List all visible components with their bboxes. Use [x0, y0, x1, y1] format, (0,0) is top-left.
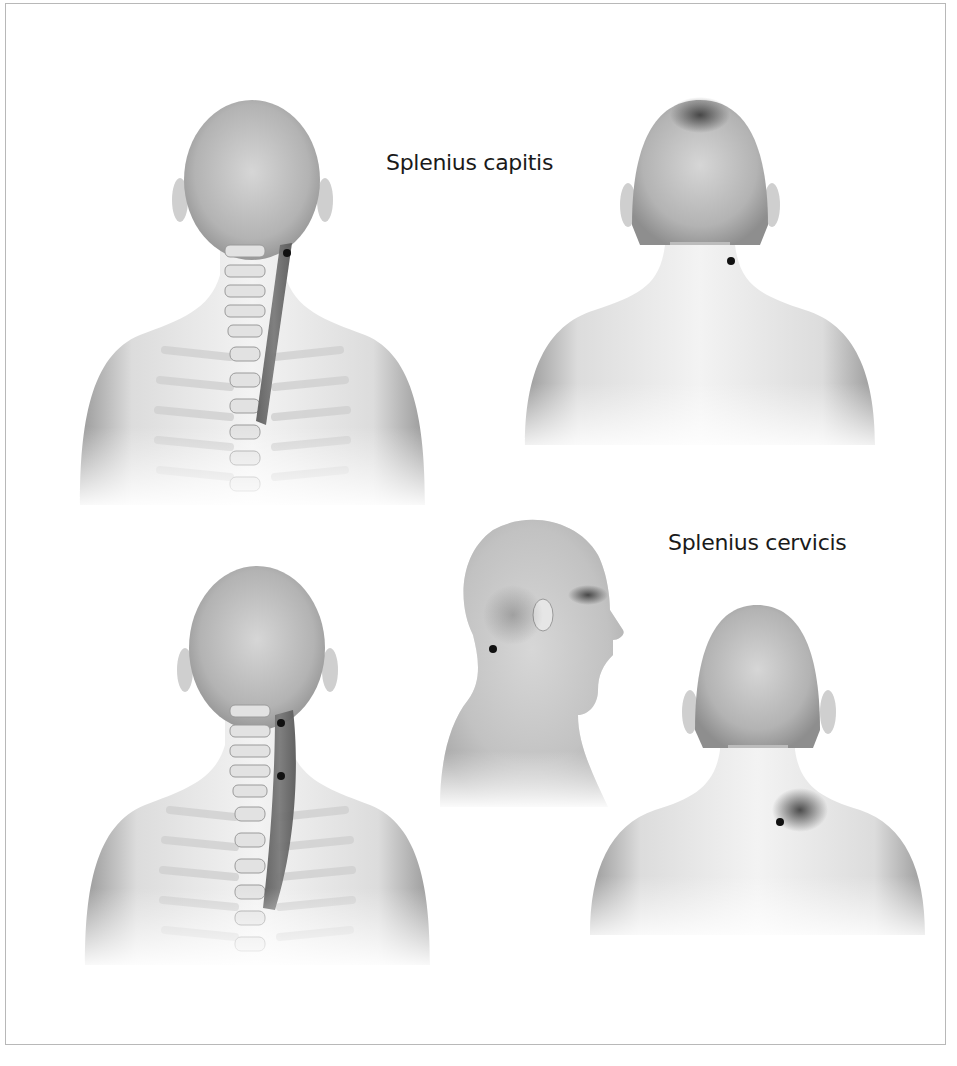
capitis-anatomy-figure: [70, 95, 435, 510]
capitis-referral-figure: [520, 95, 880, 455]
cervicis-anatomy-figure: [75, 560, 440, 970]
cervicis-referral-posterior-figure: [585, 600, 930, 945]
label-splenius-cervicis: Splenius cervicis: [668, 530, 846, 555]
